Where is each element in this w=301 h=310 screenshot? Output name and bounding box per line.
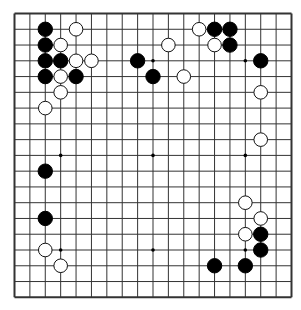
- white-stone[interactable]: [69, 54, 83, 68]
- white-stone[interactable]: [85, 54, 99, 68]
- black-stone[interactable]: [38, 38, 52, 52]
- black-stone[interactable]: [38, 211, 52, 225]
- black-stone[interactable]: [254, 243, 268, 257]
- white-stone[interactable]: [254, 133, 268, 147]
- black-stone[interactable]: [53, 54, 67, 68]
- white-stone[interactable]: [208, 38, 222, 52]
- black-stone[interactable]: [238, 259, 252, 273]
- black-stone[interactable]: [254, 227, 268, 241]
- black-stone[interactable]: [223, 38, 237, 52]
- star-point: [244, 154, 248, 158]
- star-point: [244, 59, 248, 63]
- star-point: [151, 154, 155, 158]
- white-stone[interactable]: [54, 70, 68, 84]
- star-point: [59, 248, 63, 252]
- white-stone[interactable]: [239, 196, 253, 210]
- white-stone[interactable]: [54, 86, 68, 100]
- black-stone[interactable]: [69, 69, 83, 83]
- black-stone[interactable]: [38, 164, 52, 178]
- star-point: [244, 248, 248, 252]
- star-point: [151, 59, 155, 63]
- white-stone[interactable]: [162, 38, 176, 52]
- black-stone[interactable]: [38, 22, 52, 36]
- black-stone[interactable]: [38, 54, 52, 68]
- white-stone[interactable]: [54, 38, 68, 52]
- white-stone[interactable]: [38, 101, 52, 115]
- black-stone[interactable]: [146, 69, 160, 83]
- white-stone[interactable]: [69, 22, 83, 36]
- black-stone[interactable]: [38, 69, 52, 83]
- go-board[interactable]: [0, 0, 301, 310]
- white-stone[interactable]: [54, 259, 68, 273]
- white-stone[interactable]: [192, 22, 206, 36]
- black-stone[interactable]: [254, 54, 268, 68]
- star-point: [151, 248, 155, 252]
- black-stone[interactable]: [207, 22, 221, 36]
- black-stone[interactable]: [223, 22, 237, 36]
- white-stone[interactable]: [38, 243, 52, 257]
- white-stone[interactable]: [254, 212, 268, 226]
- black-stone[interactable]: [207, 259, 221, 273]
- white-stone[interactable]: [239, 227, 253, 241]
- white-stone[interactable]: [177, 70, 191, 84]
- black-stone[interactable]: [130, 54, 144, 68]
- white-stone[interactable]: [254, 86, 268, 100]
- star-point: [59, 154, 63, 158]
